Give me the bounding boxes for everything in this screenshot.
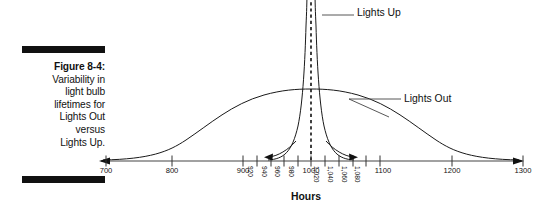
annotation-lights-out: Lights Out (404, 93, 451, 104)
curve-lights-out (103, 89, 519, 160)
x-axis-title: Hours (283, 191, 329, 202)
tick-label-1040: 1,040 (327, 166, 334, 183)
tick-label-920: 920 (247, 166, 254, 177)
tick-label-1060: 1,060 (341, 166, 348, 183)
leader-line-lights-out-tail (349, 99, 389, 117)
x-axis-arrow-left (99, 158, 110, 165)
curve-lights-up-right (315, 0, 354, 160)
tick-label-940: 940 (261, 166, 268, 177)
tick-label-1020: 1,020 (313, 166, 320, 183)
annotation-lights-up: Lights Up (357, 7, 401, 18)
tick-label-1100: 1100 (375, 166, 391, 175)
figure-container: Figure 8-4: Variability in light bulb li… (0, 0, 555, 212)
tick-label-960: 960 (274, 166, 281, 177)
tick-label-1080: 1,080 (354, 166, 361, 183)
chart-plot-area (0, 0, 555, 212)
tick-label-700: 700 (100, 166, 113, 175)
tick-label-1300: 1300 (515, 166, 532, 175)
tick-label-1200: 1200 (444, 166, 461, 175)
tick-label-980: 980 (288, 166, 295, 177)
curve-lights-up (268, 0, 307, 160)
x-axis-arrow-right (513, 158, 524, 165)
tick-label-800: 800 (166, 166, 179, 175)
